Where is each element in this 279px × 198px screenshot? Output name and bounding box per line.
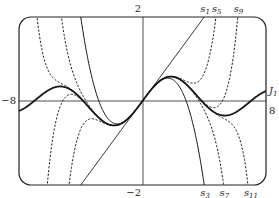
- series-line-s5: [19, 0, 266, 198]
- y-min-label: −2: [126, 187, 141, 198]
- curves-group: [19, 0, 266, 198]
- series-label-J1: J1: [267, 85, 277, 98]
- series-line-s3: [19, 0, 266, 198]
- series-label-s3: s3: [200, 187, 210, 198]
- series-line-s1: [19, 0, 266, 198]
- y-max-label: 2: [135, 3, 141, 14]
- series-label-s9: s9: [234, 3, 244, 16]
- series-line-s11: [19, 0, 266, 198]
- series-label-s11: s11: [244, 187, 258, 198]
- bessel-chart: 2 −2 −8 8 J1s1s3s5s7s9s11: [0, 0, 279, 198]
- x-max-label: 8: [269, 105, 275, 116]
- series-label-s5: s5: [212, 3, 222, 16]
- series-label-s1: s1: [200, 3, 210, 16]
- series-label-s7: s7: [220, 187, 230, 198]
- series-line-s7: [19, 0, 266, 198]
- series-line-s9: [19, 0, 266, 198]
- x-min-label: −8: [1, 95, 16, 106]
